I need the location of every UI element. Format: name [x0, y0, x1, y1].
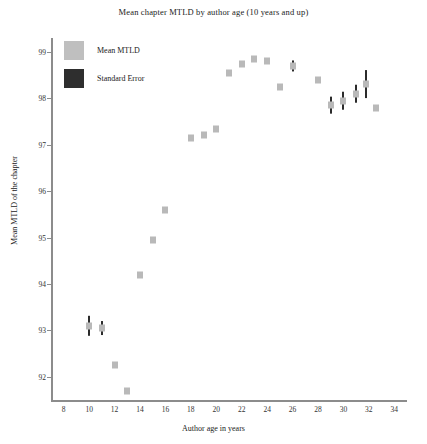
x-tick-label: 14 [128, 405, 152, 414]
mean-marker [328, 102, 334, 109]
mean-marker [340, 97, 346, 104]
data-point-marker [161, 205, 169, 215]
data-point-marker [263, 56, 271, 66]
x-tick-label: 12 [103, 405, 127, 414]
y-axis-title: Mean MTLD of the chapter [10, 111, 19, 291]
data-point-marker [136, 270, 144, 280]
data-point-marker [238, 59, 246, 69]
mean-marker [201, 132, 207, 139]
data-point-marker [200, 130, 208, 140]
mean-marker [162, 206, 168, 213]
mean-marker [363, 81, 369, 88]
x-tick-label: 34 [382, 405, 406, 414]
mean-marker [150, 236, 156, 243]
data-point-marker [187, 133, 195, 143]
mean-marker [213, 125, 219, 132]
data-point-marker [111, 360, 119, 370]
data-point-marker [339, 96, 347, 106]
plot-area [51, 38, 407, 400]
chart-title: Mean chapter MTLD by author age (10 year… [0, 7, 427, 17]
data-point-marker [149, 235, 157, 245]
x-axis-line [51, 400, 407, 402]
x-tick-label: 28 [306, 405, 330, 414]
data-point-marker [352, 89, 360, 99]
x-tick-label: 8 [52, 405, 76, 414]
mean-marker [188, 134, 194, 141]
data-point-marker [98, 323, 106, 333]
x-tick-label: 10 [77, 405, 101, 414]
y-tick-label: 98 [20, 94, 46, 103]
x-tick-label: 30 [331, 405, 355, 414]
legend-swatch-mean [64, 41, 84, 60]
y-tick-label: 94 [20, 279, 46, 288]
x-tick-label: 32 [357, 405, 381, 414]
y-tick-label: 93 [20, 326, 46, 335]
mean-marker [373, 104, 379, 111]
data-point-marker [314, 75, 322, 85]
mean-marker [124, 387, 130, 394]
y-tick-label: 95 [20, 233, 46, 242]
mean-marker [264, 58, 270, 65]
data-point-marker [289, 61, 297, 71]
mean-marker [137, 271, 143, 278]
mean-marker [251, 55, 257, 62]
legend-swatch-error [64, 69, 84, 88]
y-tick-label: 96 [20, 187, 46, 196]
y-tick-label: 99 [20, 47, 46, 56]
mean-marker [112, 362, 118, 369]
data-point-marker [212, 124, 220, 134]
data-point-marker [362, 79, 370, 89]
data-point-marker [123, 386, 131, 396]
x-tick-label: 24 [255, 405, 279, 414]
mean-marker [353, 90, 359, 97]
legend-label-error: Standard Error [97, 74, 144, 83]
x-axis-title: Author age in years [0, 424, 427, 433]
x-tick-label: 26 [281, 405, 305, 414]
data-point-marker [225, 68, 233, 78]
data-point-marker [372, 103, 380, 113]
mean-marker [226, 69, 232, 76]
y-tick-label: 92 [20, 372, 46, 381]
mean-marker [99, 325, 105, 332]
x-tick-label: 22 [230, 405, 254, 414]
x-tick-label: 20 [204, 405, 228, 414]
data-point-marker [250, 54, 258, 64]
mean-marker [290, 62, 296, 69]
mean-marker [86, 322, 92, 329]
mean-marker [239, 60, 245, 67]
data-point-marker [85, 321, 93, 331]
legend-label-mean: Mean MTLD [97, 46, 140, 55]
x-tick-label: 16 [153, 405, 177, 414]
mean-marker [315, 76, 321, 83]
x-tick-label: 18 [179, 405, 203, 414]
y-tick-label: 97 [20, 140, 46, 149]
data-point-marker [276, 82, 284, 92]
data-point-marker [327, 100, 335, 110]
chart-container: Mean chapter MTLD by author age (10 year… [0, 0, 427, 444]
mean-marker [277, 83, 283, 90]
